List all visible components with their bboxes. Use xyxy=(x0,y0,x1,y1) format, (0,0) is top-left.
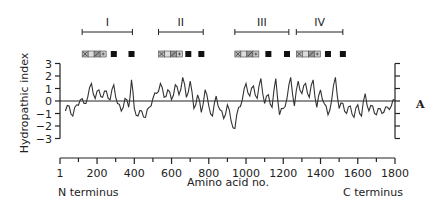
domain-brackets: IIIIIIIV xyxy=(82,16,343,35)
panel-label: A xyxy=(415,98,425,111)
svg-text:I: I xyxy=(106,16,109,29)
hydropathy-trace xyxy=(65,77,395,128)
c-terminus-label: C terminus xyxy=(343,186,403,199)
y-tick-label: 1 xyxy=(45,83,52,96)
x-tick-label: 1200 xyxy=(269,167,297,180)
x-tick-label: 1600 xyxy=(344,167,372,180)
y-tick-label: −3 xyxy=(36,133,52,146)
domain-I: I xyxy=(82,16,132,35)
y-tick-label: −2 xyxy=(36,120,52,133)
y-tick-label: 0 xyxy=(45,95,52,108)
axes: 3210−1−2−3120040060080010001200140016001… xyxy=(36,58,409,181)
x-tick-label: 1 xyxy=(57,167,64,180)
x-tick-label: 1800 xyxy=(381,167,409,180)
segment-markers xyxy=(82,51,346,57)
svg-text:II: II xyxy=(178,16,185,29)
x-tick-label: 1400 xyxy=(307,167,335,180)
segment-marker-I xyxy=(82,51,134,57)
segment-marker-IV xyxy=(296,51,346,57)
segment-marker-III xyxy=(235,51,290,57)
x-tick-label: 400 xyxy=(124,167,145,180)
y-tick-label: 3 xyxy=(45,58,52,71)
segment-marker-II xyxy=(159,51,205,57)
hydropathy-plot: IIIIIIIV 3210−1−2−3120040060080010001200… xyxy=(0,0,447,212)
y-axis-label: Hydropathic index xyxy=(18,52,31,153)
domain-IV: IV xyxy=(296,16,343,35)
svg-text:III: III xyxy=(257,16,267,29)
svg-text:IV: IV xyxy=(314,16,325,29)
domain-II: II xyxy=(159,16,204,35)
y-tick-label: 2 xyxy=(45,70,52,83)
n-terminus-label: N terminus xyxy=(58,186,119,199)
x-tick-label: 600 xyxy=(161,167,182,180)
x-tick-label: 200 xyxy=(87,167,108,180)
domain-III: III xyxy=(235,16,289,35)
x-axis-label: Amino acid no. xyxy=(187,176,269,189)
y-tick-label: −1 xyxy=(36,108,52,121)
